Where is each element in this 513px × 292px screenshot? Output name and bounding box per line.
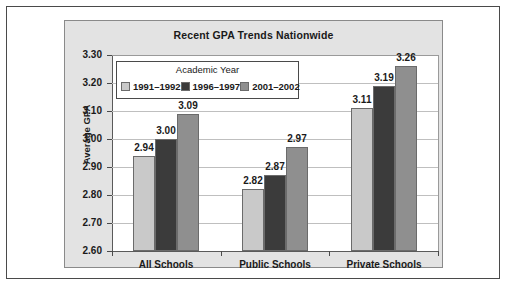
legend-items: 1991–19921996–19972001–2002 — [121, 81, 296, 92]
y-tick-label: 2.80 — [62, 189, 102, 200]
bar — [177, 114, 199, 251]
x-tick-label: All Schools — [106, 259, 226, 270]
legend-swatch-icon — [181, 82, 190, 91]
bar — [351, 108, 373, 251]
x-tick-label: Public Schools — [215, 259, 335, 270]
bar — [373, 86, 395, 251]
y-tick-label: 2.60 — [62, 245, 102, 256]
y-tick-mark — [107, 167, 112, 168]
y-tick-mark — [107, 223, 112, 224]
page-frame: Recent GPA Trends Nationwide Average GPA… — [6, 6, 500, 279]
chart-title: Recent GPA Trends Nationwide — [65, 29, 442, 41]
y-tick-label: 3.30 — [62, 49, 102, 60]
legend: Academic Year 1991–19921996–19972001–200… — [116, 61, 299, 99]
bar — [242, 189, 264, 251]
plot-right-border — [438, 55, 439, 252]
legend-title: Academic Year — [117, 64, 298, 75]
x-tick-mark — [329, 251, 330, 256]
legend-swatch-icon — [240, 82, 249, 91]
y-tick-label: 2.70 — [62, 217, 102, 228]
bar — [133, 156, 155, 251]
bar — [155, 139, 177, 251]
x-tick-mark — [438, 251, 439, 256]
legend-item: 1996–1997 — [181, 81, 241, 92]
legend-label: 1996–1997 — [193, 81, 241, 92]
bar-value-label: 2.97 — [281, 133, 313, 144]
legend-label: 1991–1992 — [133, 81, 181, 92]
bar-value-label: 3.26 — [390, 52, 422, 63]
y-tick-mark — [107, 111, 112, 112]
x-tick-label: Private Schools — [324, 259, 444, 270]
y-tick-mark — [107, 139, 112, 140]
legend-item: 2001–2002 — [240, 81, 300, 92]
y-tick-mark — [107, 195, 112, 196]
bar-value-label: 3.09 — [172, 100, 204, 111]
legend-swatch-icon — [121, 82, 130, 91]
y-tick-label: 3.00 — [62, 133, 102, 144]
x-tick-mark — [112, 251, 113, 256]
y-tick-mark — [107, 83, 112, 84]
x-tick-mark — [221, 251, 222, 256]
y-tick-mark — [107, 55, 112, 56]
y-tick-label: 3.20 — [62, 77, 102, 88]
y-tick-label: 3.10 — [62, 105, 102, 116]
legend-item: 1991–1992 — [121, 81, 181, 92]
y-tick-label: 2.90 — [62, 161, 102, 172]
bar — [264, 175, 286, 251]
chart-panel: Recent GPA Trends Nationwide Average GPA… — [64, 20, 443, 268]
legend-label: 2001–2002 — [252, 81, 300, 92]
bar — [395, 66, 417, 251]
bar — [286, 147, 308, 251]
